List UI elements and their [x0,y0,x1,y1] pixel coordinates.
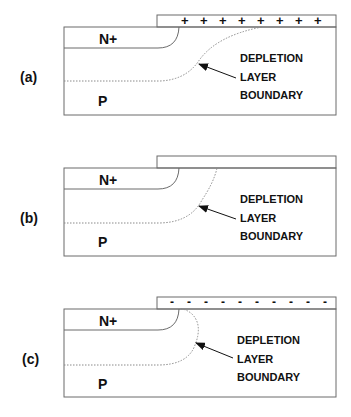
panel-label: (a) [20,69,37,85]
panel-a: (a) + + + + + + + + N+ P DEPLETION LAYER… [20,13,336,115]
annotation-line: DEPLETION [237,334,300,346]
panel-label: (c) [22,351,39,367]
annotation: DEPLETION LAYER BOUNDARY [240,193,304,242]
charge-minus: - [238,295,242,309]
p-label: P [98,93,107,109]
depletion-boundary [64,309,198,365]
charge-plus: + [181,13,189,28]
panel-label: (b) [20,210,38,226]
annotation-line: DEPLETION [240,52,303,64]
n-plus-junction [64,309,179,330]
panel-c: (c) - - - - - - - - - - N+ P DEPLETION L… [22,295,336,397]
p-label: P [98,234,107,250]
annotation-line: LAYER [237,353,273,365]
p-label: P [98,376,107,392]
depletion-boundary [64,27,262,81]
annotation: DEPLETION LAYER BOUNDARY [240,52,304,101]
annotation-line: BOUNDARY [237,371,301,383]
charge-minus: - [187,295,191,309]
annotation-line: BOUNDARY [240,89,304,101]
charge-minus: - [255,295,259,309]
depletion-boundary [64,168,217,223]
annotation-line: LAYER [240,71,276,83]
charge-minus: - [306,295,310,309]
charge-minus: - [221,295,225,309]
charge-plus: + [257,13,265,28]
charge-minus: - [204,295,208,309]
charge-plus: + [314,13,322,28]
n-plus-junction [64,27,179,48]
charge-plus: + [219,13,227,28]
n-plus-label: N+ [99,313,117,329]
panel-b: (b) N+ P DEPLETION LAYER BOUNDARY [20,156,336,256]
annotation-line: BOUNDARY [240,230,304,242]
gate-electrode [157,156,336,168]
charge-plus: + [276,13,284,28]
charge-plus: + [200,13,208,28]
charge-plus: + [238,13,246,28]
n-plus-label: N+ [99,172,117,188]
arrow-icon [196,343,233,358]
charge-minus: - [289,295,293,309]
charge-minus: - [170,295,174,309]
n-plus-junction [64,168,179,189]
annotation: DEPLETION LAYER BOUNDARY [237,334,301,383]
arrow-icon [199,206,236,219]
annotation-line: LAYER [240,212,276,224]
charge-minus: - [272,295,276,309]
depletion-diagram: (a) + + + + + + + + N+ P DEPLETION LAYER… [0,0,351,417]
charge-minus: - [323,295,327,309]
n-plus-label: N+ [99,31,117,47]
arrow-icon [199,64,236,78]
annotation-line: DEPLETION [240,193,303,205]
charge-plus: + [295,13,303,28]
